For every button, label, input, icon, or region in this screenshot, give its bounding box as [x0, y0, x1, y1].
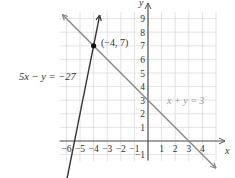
x-tick-label: −3 — [102, 144, 112, 154]
y-tick-label: 7 — [140, 41, 145, 51]
y-tick-label: 8 — [140, 28, 145, 38]
x-tick-label: −6 — [61, 144, 71, 154]
x-tick-label: 1 — [159, 144, 164, 154]
equation-label-1: 5x − y = −27 — [19, 72, 76, 83]
equation-label-2: x + y = 3 — [167, 96, 204, 106]
y-tick-label: −1 — [135, 150, 145, 160]
y-tick-label: 6 — [140, 55, 145, 65]
x-axis-label: x — [225, 146, 229, 156]
x-tick-label: −4 — [89, 144, 99, 154]
intersection-point — [91, 43, 96, 48]
x-tick-label: 2 — [173, 144, 178, 154]
y-axis-label: y — [139, 0, 143, 8]
y-tick-label: 4 — [140, 82, 145, 92]
intersection-label: (−4, 7) — [101, 38, 128, 48]
y-tick-label: 5 — [140, 69, 145, 79]
y-tick-label: 1 — [140, 123, 145, 133]
chart-plot: −6−5−4−3−2−11234−1123456789 — [0, 0, 235, 178]
x-tick-label: −5 — [75, 144, 85, 154]
y-tick-label: 9 — [140, 14, 145, 24]
y-tick-label: 2 — [140, 109, 145, 119]
x-tick-label: 3 — [186, 144, 191, 154]
x-tick-label: −2 — [116, 144, 126, 154]
